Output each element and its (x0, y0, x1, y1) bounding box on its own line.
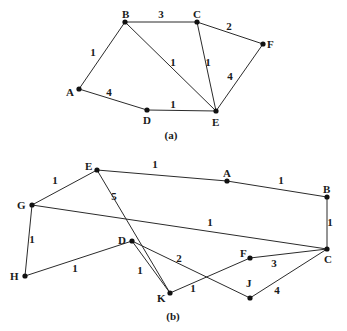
edge-weight: 1 (170, 56, 176, 68)
node-a-f (260, 41, 265, 46)
edge-weight: 1 (327, 216, 333, 228)
node-b-j (247, 295, 252, 300)
edge-weight: 1 (205, 56, 211, 68)
node-label: B (323, 183, 331, 195)
edge-weight: 1 (207, 216, 213, 228)
node-b-b (324, 194, 329, 199)
edge-a-a-b (79, 22, 125, 89)
edge-b-g-c (32, 205, 327, 249)
edge-b-e-k (97, 170, 170, 293)
node-b-e (94, 167, 99, 172)
node-b-g (29, 202, 34, 207)
node-b-h (22, 273, 27, 278)
edge-b-a-b (227, 181, 327, 197)
node-a-e (213, 108, 218, 113)
edge-weight: 2 (176, 252, 182, 264)
node-label: F (240, 247, 247, 259)
edge-weight: 2 (226, 20, 232, 32)
edge-weight: 4 (274, 284, 280, 296)
node-label: J (246, 277, 252, 289)
node-label: C (324, 253, 332, 265)
edge-weight: 1 (152, 158, 158, 170)
edge-a-f-e (216, 44, 263, 111)
node-label: B (122, 8, 130, 20)
node-b-c (324, 246, 329, 251)
node-b-f (247, 255, 252, 260)
edge-weight: 1 (190, 282, 196, 294)
node-label: A (223, 167, 231, 179)
node-label: D (118, 234, 126, 246)
node-label: D (143, 114, 151, 126)
node-label: E (85, 160, 92, 172)
graph-canvas: 132114411115111123141 ABCDEFEABGDCFHKJ (… (0, 0, 347, 331)
edge-weights-layer: 132114411115111123141 (29, 8, 333, 296)
edge-weight: 1 (278, 174, 284, 186)
node-label: G (17, 199, 26, 211)
node-label: H (10, 270, 19, 282)
edge-a-a-d (79, 89, 147, 110)
edge-weight: 3 (271, 257, 277, 269)
edge-a-d-e (147, 110, 216, 111)
edge-weight: 1 (72, 262, 78, 274)
node-b-k (167, 290, 172, 295)
node-label: A (66, 86, 74, 98)
edge-b-e-a (97, 170, 227, 181)
node-label: E (212, 116, 219, 128)
edge-b-k-f (170, 258, 250, 293)
edge-weight: 5 (111, 190, 117, 202)
node-b-d (129, 238, 134, 243)
node-a-b (122, 19, 127, 24)
node-a-c (194, 19, 199, 24)
figure-caption-b: (b) (166, 310, 180, 323)
edge-weight: 4 (106, 86, 112, 98)
figure-caption-a: (a) (165, 129, 178, 142)
node-a-d (144, 107, 149, 112)
edge-weight: 1 (90, 46, 96, 58)
node-label: F (267, 38, 274, 50)
edge-weight: 3 (158, 8, 164, 20)
edge-weight: 1 (29, 233, 35, 245)
edge-weight: 1 (137, 264, 143, 276)
node-b-a (224, 178, 229, 183)
edge-b-h-d (25, 241, 132, 276)
node-label: K (157, 292, 166, 304)
edge-weight: 1 (52, 174, 58, 186)
edge-b-g-e (32, 170, 97, 205)
edge-weight: 4 (227, 70, 233, 82)
edge-weight: 1 (170, 98, 176, 110)
node-label: C (193, 8, 201, 20)
node-a-a (76, 86, 81, 91)
